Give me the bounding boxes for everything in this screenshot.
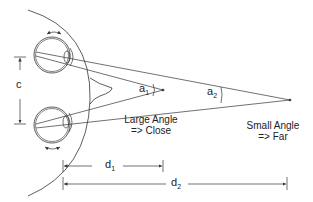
bottom-rotation-arrow xyxy=(45,147,60,149)
a2-sub: 2 xyxy=(213,92,217,99)
near-caption: Large Angle => Close xyxy=(116,114,186,136)
d2-label: d2 xyxy=(171,177,181,189)
far-caption-line1: Small Angle xyxy=(240,120,306,131)
d1-sub: 1 xyxy=(111,165,115,172)
d2-sub: 2 xyxy=(177,183,181,190)
far-caption: Small Angle => Far xyxy=(240,120,306,142)
d1-label: d1 xyxy=(105,159,115,171)
vergence-diagram xyxy=(0,0,313,202)
top-rotation-arrow xyxy=(47,32,61,34)
a1-label: a1 xyxy=(139,83,149,95)
far-caption-line2: => Far xyxy=(240,131,306,142)
c-interocular xyxy=(14,57,26,124)
head-arc xyxy=(28,10,90,196)
nose-shape xyxy=(90,78,112,104)
c-label: c xyxy=(16,79,22,90)
near-caption-line1: Large Angle xyxy=(116,114,186,125)
a1-sub: 1 xyxy=(145,89,149,96)
near-caption-line2: => Close xyxy=(116,125,186,136)
a2-label: a2 xyxy=(207,86,217,98)
